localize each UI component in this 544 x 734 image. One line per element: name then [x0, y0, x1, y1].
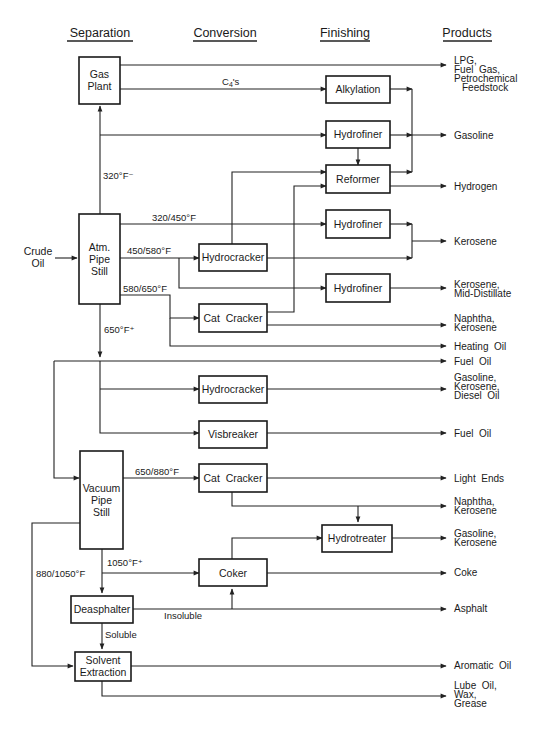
unit-label: Deasphalter	[74, 603, 131, 615]
unit-label: Reformer	[336, 173, 380, 185]
flow-line	[54, 361, 79, 478]
product-coke: Coke	[454, 567, 478, 578]
flow-line	[232, 492, 446, 506]
unit-gas-plant: Gas Plant	[79, 57, 120, 104]
unit-label: Extraction	[80, 666, 127, 678]
product-gasoline-kerosene: Gasoline, Kerosene	[454, 528, 497, 548]
header-products: Products	[442, 26, 491, 40]
unit-label: Hydrofiner	[334, 128, 383, 140]
unit-label: Atm.	[89, 241, 111, 253]
products: LPG, Fuel Gas, Petrochemical Feedstock G…	[454, 55, 517, 709]
product-gasoline-kerosene-diesel: Gasoline, Kerosene, Diesel Oil	[454, 372, 500, 401]
unit-label: Hydrocracker	[202, 383, 265, 395]
product-aromatic-oil: Aromatic Oil	[454, 660, 511, 671]
unit-label: Visbreaker	[208, 428, 259, 440]
unit-label: Hydrotreater	[328, 532, 387, 544]
unit-label: Plant	[88, 80, 112, 92]
flow-line	[120, 295, 199, 318]
unit-label: Still	[91, 265, 108, 277]
unit-label: Alkylation	[336, 83, 381, 95]
feed-label: Oil	[32, 257, 45, 269]
stream-label: 650/880°F	[135, 466, 179, 477]
stream-label: Soluble	[105, 629, 137, 640]
unit-solvent-extraction: Solvent Extraction	[75, 652, 131, 681]
product-kerosene: Kerosene	[454, 236, 497, 247]
stream-label: 320°F⁻	[103, 170, 133, 181]
unit-hydrofiner-3: Hydrofiner	[326, 274, 390, 302]
header-conversion: Conversion	[193, 26, 256, 40]
unit-label: Pipe	[91, 494, 112, 506]
unit-label: Cat Cracker	[204, 312, 263, 324]
product-text: Kerosene	[454, 322, 497, 333]
header-finishing: Finishing	[320, 26, 370, 40]
product-lube-wax-grease: Lube Oil, Wax, Grease	[454, 680, 497, 709]
unit-label: Gas	[90, 68, 109, 80]
product-light-ends: Light Ends	[454, 473, 504, 484]
flow-line	[232, 172, 326, 244]
product-kerosene-mid-distillate: Kerosene, Mid-Distillate	[454, 279, 512, 299]
flow-line	[232, 538, 322, 559]
stream-label-c4s: C4's	[222, 76, 240, 88]
unit-hydrofiner-1: Hydrofiner	[326, 121, 390, 148]
flow-line	[32, 523, 80, 666]
unit-cat-cracker-1: Cat Cracker	[199, 304, 267, 332]
stream-label: 650°F⁺	[104, 324, 134, 335]
flow-line	[102, 681, 446, 696]
unit-cat-cracker-2: Cat Cracker	[199, 464, 267, 492]
unit-alkylation: Alkylation	[326, 76, 390, 103]
unit-label: Hydrofiner	[334, 282, 383, 294]
unit-deasphalter: Deasphalter	[71, 596, 133, 623]
unit-label: Coker	[219, 567, 248, 579]
product-fuel-oil-1: Fuel Oil	[454, 356, 491, 367]
product-text: Kerosene	[454, 505, 497, 516]
product-naphtha-kerosene-1: Naphtha, Kerosene	[454, 313, 497, 333]
product-text: Feedstock	[462, 82, 509, 93]
unit-label: Hydrocracker	[202, 251, 265, 263]
unit-coker: Coker	[199, 559, 267, 586]
stream-label: 450/580°F	[127, 245, 171, 256]
stream-label: 1050°F⁺	[107, 557, 143, 568]
product-lpg: LPG, Fuel Gas, Petrochemical Feedstock	[454, 55, 517, 93]
product-text: Diesel Oil	[454, 390, 500, 401]
product-gasoline: Gasoline	[454, 130, 494, 141]
unit-label: Still	[93, 506, 110, 518]
refinery-flow-diagram: Separation Conversion Finishing Products	[0, 0, 544, 734]
product-hydrogen: Hydrogen	[454, 181, 497, 192]
product-heating-oil: Heating Oil	[454, 341, 506, 352]
product-text: Grease	[454, 698, 487, 709]
stream-labels: C4's 320°F⁻ 320/450°F 450/580°F 580/650°…	[36, 76, 240, 640]
unit-atm-pipe-still: Atm. Pipe Still	[79, 214, 120, 304]
unit-hydrocracker-1: Hydrocracker	[199, 244, 267, 271]
flow-line	[267, 186, 326, 312]
feed-label: Crude	[24, 245, 53, 257]
crude-oil-feed: Crude Oil	[24, 245, 53, 269]
unit-hydrotreater: Hydrotreater	[322, 525, 392, 552]
unit-reformer: Reformer	[326, 165, 390, 193]
flow-line	[100, 361, 199, 433]
stream-label: Insoluble	[164, 610, 202, 621]
unit-label: Solvent	[85, 654, 120, 666]
product-text: Mid-Distillate	[454, 288, 512, 299]
column-headers: Separation Conversion Finishing Products	[67, 26, 492, 41]
stream-label: 320/450°F	[152, 212, 196, 223]
unit-label: Cat Cracker	[204, 472, 263, 484]
unit-visbreaker: Visbreaker	[199, 421, 267, 448]
unit-hydrocracker-2: Hydrocracker	[199, 376, 267, 403]
stream-label: 580/650°F	[123, 283, 167, 294]
product-text: Kerosene	[454, 537, 497, 548]
product-asphalt: Asphalt	[454, 603, 488, 614]
stream-label: 880/1050°F	[36, 568, 85, 579]
unit-vacuum-pipe-still: Vacuum Pipe Still	[80, 451, 123, 549]
unit-label: Hydrofiner	[334, 218, 383, 230]
product-naphtha-kerosene-2: Naphtha, Kerosene	[454, 496, 497, 516]
unit-label: Pipe	[89, 253, 110, 265]
unit-hydrofiner-2: Hydrofiner	[326, 210, 390, 238]
unit-label: Vacuum	[83, 482, 121, 494]
header-separation: Separation	[70, 26, 131, 40]
product-fuel-oil-2: Fuel Oil	[454, 428, 491, 439]
